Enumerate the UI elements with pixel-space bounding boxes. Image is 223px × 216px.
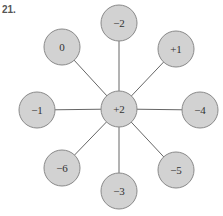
star-diagram: −2+1−4−5−3−6−10 +2 — [0, 0, 223, 216]
center-label: +2 — [113, 103, 125, 115]
outer-node: −2 — [101, 5, 137, 41]
outer-node: −3 — [101, 173, 137, 209]
node-label: −6 — [56, 162, 68, 174]
center-node: +2 — [101, 91, 137, 127]
node-label: −5 — [170, 164, 182, 176]
node-label: −2 — [113, 17, 125, 29]
node-label: −4 — [194, 104, 206, 116]
outer-node: −6 — [44, 150, 80, 186]
outer-node: −1 — [19, 92, 55, 128]
outer-node: +1 — [158, 31, 194, 67]
outer-node: −5 — [158, 152, 194, 188]
outer-node: 0 — [44, 29, 80, 65]
node-label: 0 — [59, 41, 65, 53]
node-label: −1 — [31, 104, 43, 116]
node-label: +1 — [170, 43, 182, 55]
outer-node: −4 — [182, 92, 218, 128]
node-label: −3 — [113, 185, 125, 197]
